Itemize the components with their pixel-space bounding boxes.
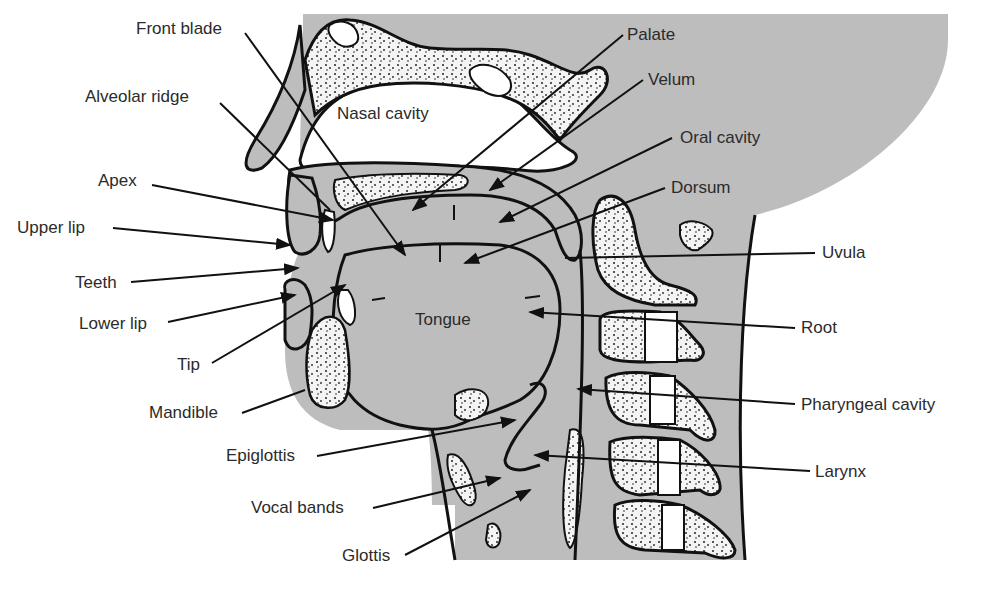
label-velum: Velum bbox=[648, 71, 695, 88]
label-vocal-bands: Vocal bands bbox=[251, 499, 344, 516]
label-tip: Tip bbox=[177, 356, 200, 373]
label-teeth: Teeth bbox=[75, 274, 117, 291]
label-root: Root bbox=[801, 319, 837, 336]
label-tongue: Tongue bbox=[415, 311, 471, 328]
lower-lip bbox=[285, 280, 312, 350]
label-glottis: Glottis bbox=[342, 547, 390, 564]
label-oral-cavity: Oral cavity bbox=[680, 129, 760, 146]
mandible-bone bbox=[306, 317, 349, 408]
label-dorsum: Dorsum bbox=[671, 179, 731, 196]
label-pharyngeal-cavity: Pharyngeal cavity bbox=[801, 396, 935, 413]
label-uvula: Uvula bbox=[822, 244, 865, 261]
label-alveolar-ridge: Alveolar ridge bbox=[85, 88, 189, 105]
label-larynx: Larynx bbox=[815, 463, 866, 480]
label-nasal-cavity: Nasal cavity bbox=[337, 105, 429, 122]
label-upper-lip: Upper lip bbox=[17, 219, 85, 236]
label-palate: Palate bbox=[627, 26, 675, 43]
label-front-blade: Front blade bbox=[136, 20, 222, 37]
upper-tooth bbox=[322, 210, 335, 252]
label-apex: Apex bbox=[98, 172, 137, 189]
label-epiglottis: Epiglottis bbox=[226, 447, 295, 464]
label-lower-lip: Lower lip bbox=[79, 315, 147, 332]
label-mandible: Mandible bbox=[149, 404, 218, 421]
